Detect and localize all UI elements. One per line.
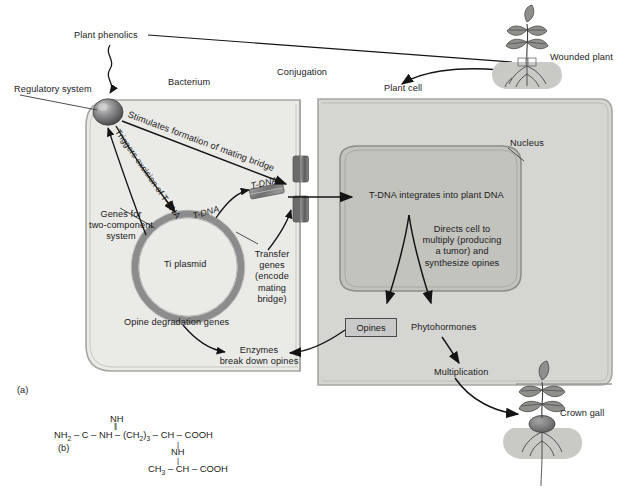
formula-ch3-pre: CH [148, 463, 162, 474]
label-multiplication: Multiplication [434, 367, 488, 378]
formula-side-chain: CH3 – CH – COOH [148, 463, 228, 476]
label-nucleus: Nucleus [510, 138, 544, 149]
label-phytohormones: Phytohormones [411, 322, 477, 333]
formula-seg-c: – CH – COOH [150, 429, 213, 440]
label-t-dna-integrates-into-plant-dna: T-DNA integrates into plant DNA [369, 190, 504, 201]
label-directs-cell-to-multiply: Directs cell tomultiply (producinga tumo… [410, 224, 514, 269]
panel-tag-a: (a) [17, 385, 28, 395]
crown-gall-agrobacterium-figure: Plant phenolics Regulatory system Bacter… [0, 0, 638, 488]
label-enzymes-break-down-opines: Enzymesbreak down opines [213, 345, 305, 367]
regulatory-system-leader-line [20, 95, 97, 110]
wounded-plant-illustration [492, 5, 562, 89]
formula-side-rest: – CH – COOH [165, 463, 228, 474]
label-crown-gall: Crown gall [560, 408, 604, 419]
formula-line-nh-top: NH [110, 413, 124, 424]
label-transfer-genes-encode-mating-bridge: Transfergenes(encodematingbridge) [248, 249, 296, 305]
label-plant-cell: Plant cell [384, 83, 422, 94]
formula-main-chain: NH2 – C – NH – (CH2)3 – CH – COOH [54, 429, 213, 442]
label-opine-degradation-genes: Opine degradation genes [124, 317, 229, 328]
wounded-plant-to-plant-cell-arrow [402, 69, 500, 84]
opines-box: Opines [345, 318, 397, 337]
label-plant-phenolics: Plant phenolics [74, 30, 138, 41]
label-conjugation: Conjugation [277, 67, 327, 78]
label-bacterium: Bacterium [168, 77, 210, 88]
label-wounded-plant: Wounded plant [550, 52, 613, 63]
panel-tag-b: (b) [58, 443, 69, 453]
label-ti-plasmid: Ti plasmid [164, 259, 206, 270]
label-genes-for-two-component-system: Genes fortwo-componentsystem [78, 209, 164, 243]
nucleus [340, 146, 521, 291]
label-regulatory-system: Regulatory system [14, 84, 92, 95]
formula-seg-a: – C – NH – (CH [71, 429, 139, 440]
formula-nh2-pre: NH [54, 429, 68, 440]
regulatory-system-sphere [93, 99, 123, 125]
plant-phenolics-wavy-arrow [108, 45, 111, 93]
plant-phenolics-leader-line [148, 35, 512, 62]
